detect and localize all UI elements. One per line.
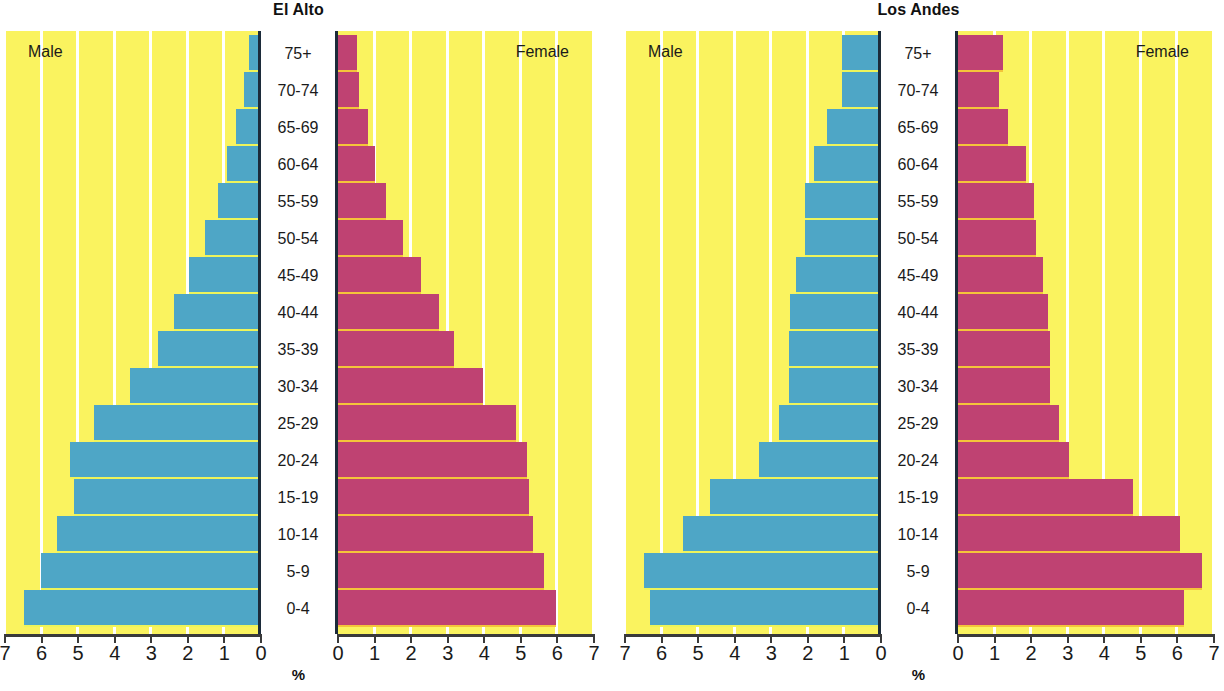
bar-male (74, 479, 261, 514)
legend-female-los-andes: Female (1136, 43, 1189, 61)
bar-male (94, 405, 260, 440)
bar-male (710, 479, 880, 514)
age-group-label: 25-29 (261, 405, 335, 442)
age-group-label: 45-49 (261, 257, 335, 294)
axis-tick-label: 0 (246, 642, 276, 665)
axis-tick-label: 5 (1126, 642, 1156, 665)
age-group-label: 20-24 (261, 442, 335, 479)
bar-male (205, 220, 260, 255)
bar-female (957, 590, 1184, 625)
bar-female (957, 479, 1133, 514)
bar-female (957, 516, 1180, 551)
bar-female (957, 405, 1059, 440)
bar-female (957, 146, 1026, 181)
gridline (592, 31, 593, 634)
bar-female (957, 294, 1048, 329)
plot-area-los-andes: Male Female 75+70-7465-6960-6455-5950-54… (620, 31, 1217, 634)
bar-male (24, 590, 260, 625)
age-group-label-column-los-andes: 75+70-7465-6960-6455-5950-5445-4940-4435… (881, 31, 955, 634)
age-group-label: 5-9 (881, 553, 955, 590)
axis-tick-label: 2 (173, 642, 203, 665)
age-group-label: 55-59 (881, 183, 955, 220)
bar-female (957, 368, 1050, 403)
bar-female (957, 553, 1202, 588)
axis-tick-label: 4 (100, 642, 130, 665)
bar-separator (24, 625, 260, 627)
axis-tick-label: 1 (209, 642, 239, 665)
bar-male (814, 146, 880, 181)
bar-male (805, 183, 880, 218)
axis-tick-label: 5 (506, 642, 536, 665)
bar-female (337, 590, 556, 625)
axis-tick-label: 4 (1089, 642, 1119, 665)
bar-male (130, 368, 260, 403)
female-zero-axis-los-andes (955, 31, 958, 634)
bar-female (337, 516, 533, 551)
axis-tick-label: 2 (1016, 642, 1046, 665)
bar-female (957, 331, 1050, 366)
gridline (555, 31, 558, 634)
axis-tick-label: 0 (943, 642, 973, 665)
female-zero-axis-el-alto (335, 31, 338, 634)
female-plot-region-el-alto (337, 31, 593, 634)
age-group-label: 45-49 (881, 257, 955, 294)
bar-male (189, 257, 260, 292)
bar-female (337, 553, 544, 588)
bar-male (236, 109, 260, 144)
axis-tick-label: 7 (1199, 642, 1224, 665)
male-plot-region-el-alto (4, 31, 260, 634)
axis-tick-label: 1 (360, 642, 390, 665)
age-group-label: 50-54 (881, 220, 955, 257)
axis-tick-label: 6 (27, 642, 57, 665)
age-group-label: 10-14 (261, 516, 335, 553)
age-group-label: 65-69 (261, 109, 335, 146)
bar-female (957, 35, 1003, 70)
axis-tick-label: 3 (756, 642, 786, 665)
age-group-label: 15-19 (881, 479, 955, 516)
bar-female (957, 257, 1043, 292)
female-plot-region-los-andes (957, 31, 1213, 634)
bar-male (789, 331, 880, 366)
gridline (1212, 31, 1213, 634)
bar-male (779, 405, 880, 440)
plot-area-el-alto: Male Female 75+70-7465-6960-6455-5950-54… (0, 31, 597, 634)
axis-tick-label: 6 (647, 642, 677, 665)
chart-title-los-andes: Los Andes (620, 1, 1217, 19)
axis-tick-label: 6 (1162, 642, 1192, 665)
bar-male (174, 294, 260, 329)
bar-male (41, 553, 260, 588)
axis-tick-label: 0 (866, 642, 896, 665)
age-group-label: 40-44 (881, 294, 955, 331)
bar-female (957, 109, 1008, 144)
bar-male (796, 257, 880, 292)
gridline (660, 31, 663, 634)
age-group-label: 70-74 (881, 72, 955, 109)
age-group-label: 75+ (261, 35, 335, 72)
bar-female (957, 442, 1069, 477)
chart-panel-el-alto: El Alto Male Female 75+70-7465-6960-6455… (0, 0, 597, 691)
legend-male-el-alto: Male (28, 43, 63, 61)
age-group-label: 15-19 (261, 479, 335, 516)
bar-female (337, 146, 375, 181)
axis-tick-label: 7 (0, 642, 20, 665)
legend-male-los-andes: Male (648, 43, 683, 61)
bar-female (337, 405, 516, 440)
axis-unit-label-los-andes: % (620, 666, 1217, 683)
bar-female (337, 72, 359, 107)
age-group-label: 30-34 (261, 368, 335, 405)
bar-male (827, 109, 880, 144)
age-group-label: 50-54 (261, 220, 335, 257)
male-plot-region-los-andes (624, 31, 880, 634)
bar-female (337, 294, 439, 329)
bar-male (842, 35, 880, 70)
bar-female (337, 442, 527, 477)
bar-male (789, 368, 880, 403)
bar-male (70, 442, 260, 477)
axis-tick-label: 3 (433, 642, 463, 665)
bar-female (337, 109, 368, 144)
bar-female (957, 183, 1034, 218)
chart-panel-los-andes: Los Andes Male Female 75+70-7465-6960-64… (620, 0, 1217, 691)
bar-male (790, 294, 880, 329)
bar-female (337, 257, 421, 292)
bar-female (337, 368, 483, 403)
